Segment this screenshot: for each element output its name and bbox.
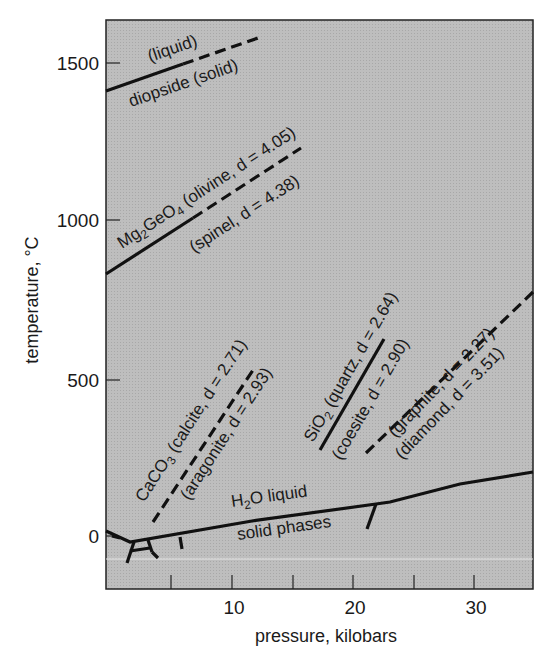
y-tick-1000: 1000: [57, 210, 99, 231]
y-axis-title: temperature, °C: [22, 236, 42, 363]
x-tick-30: 30: [465, 597, 486, 618]
x-tick-10: 10: [223, 597, 244, 618]
phase-diagram-chart: 1500 1000 500 0 10 20 30 pressure, kilob…: [0, 0, 553, 659]
y-tick-500: 500: [67, 370, 99, 391]
plot-area: [106, 20, 533, 589]
x-tick-20: 20: [344, 597, 365, 618]
x-axis-title: pressure, kilobars: [255, 626, 397, 646]
y-tick-0: 0: [88, 526, 99, 547]
y-tick-1500: 1500: [57, 53, 99, 74]
